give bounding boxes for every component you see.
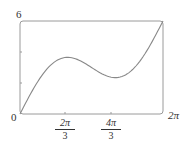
tick-numerator: 4π bbox=[101, 118, 121, 130]
x-tick-label-4pi-3: 4π 3 bbox=[101, 118, 121, 141]
x-axis-end-label: 2π bbox=[168, 110, 179, 121]
function-curve bbox=[20, 21, 163, 114]
x-tick-label-2pi-3: 2π 3 bbox=[55, 118, 75, 141]
y-axis-top-label: 6 bbox=[16, 9, 22, 20]
tick-denominator: 3 bbox=[101, 130, 121, 141]
plot-area bbox=[0, 0, 191, 147]
tick-numerator: 2π bbox=[55, 118, 75, 130]
tick-denominator: 3 bbox=[55, 130, 75, 141]
x-axis-origin-label: 0 bbox=[11, 112, 17, 123]
